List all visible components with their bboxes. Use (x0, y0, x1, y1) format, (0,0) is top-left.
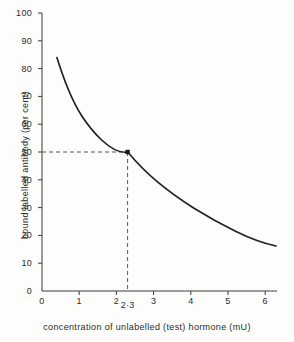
half-displacement-value-label: 2·3 (113, 300, 143, 310)
x-tick-label-6: 6 (256, 296, 274, 306)
plot-area (0, 0, 294, 342)
standard-curve-figure: 100 90 80 70 60 50 40 30 20 10 0 0 1 2 3… (0, 0, 294, 342)
x-tick-label-1: 1 (70, 296, 88, 306)
x-axis-title: concentration of unlabelled (test) hormo… (0, 322, 294, 332)
y-axis-title: bound labelled antibody (per cent) (20, 65, 30, 265)
x-tick-label-0: 0 (33, 296, 51, 306)
x-tick-marks (79, 291, 265, 295)
y-tick-label-0: 0 (6, 286, 32, 296)
intersection-marker (125, 150, 129, 154)
x-tick-label-3: 3 (145, 296, 163, 306)
x-tick-label-5: 5 (219, 296, 237, 306)
y-tick-label-90: 90 (6, 36, 32, 46)
y-tick-label-100: 100 (6, 8, 32, 18)
y-tick-marks (38, 13, 42, 263)
standard-curve-line (57, 58, 276, 247)
x-tick-label-4: 4 (182, 296, 200, 306)
